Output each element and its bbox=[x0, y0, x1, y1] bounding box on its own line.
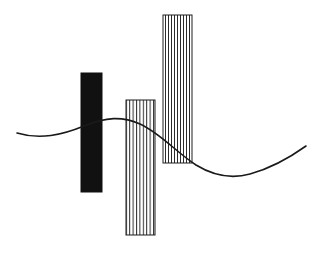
bar-hatched-tall bbox=[163, 15, 192, 163]
bar-hatched-tall-group bbox=[163, 15, 192, 163]
bar-solid-black bbox=[81, 73, 102, 192]
figure-background bbox=[0, 0, 320, 259]
abstract-figure bbox=[0, 0, 320, 259]
figure-canvas bbox=[0, 0, 320, 259]
